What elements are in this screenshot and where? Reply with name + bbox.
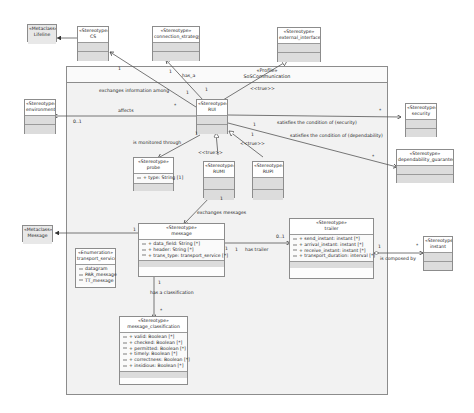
label-true-rupi: <<true>> xyxy=(240,141,265,146)
class-name: environment xyxy=(26,107,54,113)
mult-one: 1 xyxy=(205,87,208,92)
mult-one: 1 xyxy=(251,132,254,137)
class-trailer[interactable]: «Stereotype»trailer + send_instant: inst… xyxy=(289,218,374,279)
class-name: CS xyxy=(79,34,107,40)
class-name: connection_strategy xyxy=(154,34,198,40)
class-rui[interactable]: «Stereotype»RUI xyxy=(196,99,228,134)
class-name: instant xyxy=(425,244,451,250)
class-message[interactable]: «Stereotype»message + data_field: String… xyxy=(138,223,225,277)
class-rupi[interactable]: «Stereotype»RUPI xyxy=(252,161,284,198)
label-has-trailer: has trailer xyxy=(245,247,268,252)
mult-one: 1 xyxy=(220,196,223,201)
class-lifeline[interactable]: «Metaclass»Lifeline xyxy=(27,24,57,42)
label-true-rumi: <<true>> xyxy=(198,150,223,155)
class-name: probe xyxy=(135,165,172,171)
class-name: message xyxy=(140,231,223,237)
mult-one: 1 xyxy=(118,66,121,71)
class-connection-strategy[interactable]: «Stereotype»connection_strategy xyxy=(152,26,200,61)
mult-many: * xyxy=(379,108,381,113)
class-environment[interactable]: «Stereotype»environment xyxy=(24,99,56,134)
mult-many: * xyxy=(174,103,176,108)
label-exchanges-info: exchanges information among xyxy=(99,88,169,93)
label-monitored: is monitored through xyxy=(133,140,181,145)
connectors xyxy=(0,0,474,413)
class-cs[interactable]: «Stereotype»CS xyxy=(77,26,109,61)
label-has-classification: has a classification xyxy=(150,290,194,295)
class-name: Lifeline xyxy=(29,32,55,38)
class-rumi[interactable]: «Stereotype»RUMI xyxy=(203,161,235,198)
class-dependability-guarantee[interactable]: «Stereotype»dependability_guarantee xyxy=(396,149,454,183)
mult-one: 1 xyxy=(225,246,228,251)
class-security[interactable]: «Stereotype»security xyxy=(405,103,437,137)
class-name: security xyxy=(407,111,435,117)
label-sat-dependability: satisfies the condition of (dependabilit… xyxy=(290,133,383,138)
class-name: trailer xyxy=(291,226,372,232)
mult-one: 1 xyxy=(378,244,381,249)
label-composed: is composed by xyxy=(380,256,416,261)
class-name: Message xyxy=(24,233,51,239)
label-mult-env: 0..1 xyxy=(73,119,82,124)
class-name: transport_service xyxy=(77,256,114,262)
label-mult-trailer: 0..1 xyxy=(276,234,285,239)
label-exchanges-messages: exchanges messages xyxy=(197,210,246,215)
mult-one: 1 xyxy=(195,131,198,136)
mult-one: 1 xyxy=(158,280,161,285)
class-name: external_interface xyxy=(279,35,319,41)
label-true-external: <<true>> xyxy=(250,86,275,91)
mult-many: * xyxy=(372,154,374,159)
mult-one: 1 xyxy=(169,69,172,74)
mult-one: 1 xyxy=(186,90,189,95)
mult-one: 1 xyxy=(235,247,238,252)
attribute: + insidious: Boolean [*] xyxy=(120,363,187,369)
label-has-a: has_a xyxy=(182,73,195,78)
class-message-classification[interactable]: «Stereotype»message_classification + val… xyxy=(119,316,188,385)
mult-one: 1 xyxy=(133,227,136,232)
mult-many: * xyxy=(160,308,162,313)
class-external-interface[interactable]: «Stereotype»external_interface xyxy=(277,27,321,62)
class-name: RUI xyxy=(198,107,226,113)
class-message-metaclass[interactable]: «Metaclass»Message xyxy=(22,225,53,242)
enum-transport-service[interactable]: «Enumeration»transport_service datagram … xyxy=(75,248,116,288)
mult-one: 1 xyxy=(253,122,256,127)
class-instant[interactable]: «Stereotype»instant xyxy=(423,236,453,271)
class-name: RUMI xyxy=(205,169,233,175)
enum-literal: TT_message xyxy=(76,278,115,284)
class-probe[interactable]: «Stereotype»probe + type: String [1] xyxy=(133,157,174,191)
attribute: + transport_duration: interval [*] xyxy=(290,253,373,259)
class-name: message_classification xyxy=(121,324,186,330)
class-name: dependability_guarantee xyxy=(398,157,452,163)
label-sat-security: satisfies the condition of (security) xyxy=(277,120,357,125)
attribute: + type: String [1] xyxy=(134,175,173,181)
class-name: RUPI xyxy=(254,169,282,175)
mult-many: * xyxy=(416,243,418,248)
attribute: + trans_type: transport_service [*] xyxy=(139,253,224,259)
label-affects: affects xyxy=(118,108,134,113)
